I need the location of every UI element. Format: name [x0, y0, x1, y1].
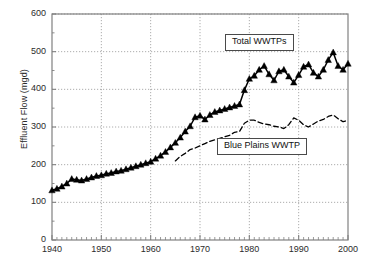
series-marker — [69, 176, 75, 182]
y-tick-label: 0 — [16, 234, 46, 244]
y-tick-label: 200 — [16, 159, 46, 169]
chart-figure: Effluent Flow (mgd) 0100200300400500600 … — [0, 0, 369, 269]
y-tick-label: 300 — [16, 121, 46, 131]
series-marker — [281, 66, 287, 72]
blue-plains-annotation: Blue Plains WWTP — [217, 138, 307, 155]
series-marker — [187, 123, 193, 129]
x-tick-label: 2000 — [328, 244, 368, 254]
x-tick-label: 1940 — [32, 244, 72, 254]
series-marker — [335, 63, 341, 69]
x-tick-label: 1970 — [180, 244, 220, 254]
series-marker — [197, 112, 203, 118]
series-marker — [320, 66, 326, 72]
y-tick-label: 400 — [16, 83, 46, 93]
y-tick-label: 100 — [16, 196, 46, 206]
series-marker — [236, 101, 242, 107]
chart-plot-area — [0, 0, 369, 269]
x-tick-label: 1990 — [279, 244, 319, 254]
x-tick-label: 1980 — [229, 244, 269, 254]
y-tick-label: 600 — [16, 8, 46, 18]
series-marker — [261, 63, 267, 69]
series-marker — [345, 60, 351, 66]
series-line-0 — [52, 52, 348, 190]
y-tick-label: 500 — [16, 46, 46, 56]
total-wwtps-annotation: Total WWTPs — [225, 34, 294, 51]
x-tick-label: 1960 — [131, 244, 171, 254]
x-tick-label: 1950 — [81, 244, 121, 254]
series-marker — [305, 61, 311, 67]
series-marker — [330, 49, 336, 55]
